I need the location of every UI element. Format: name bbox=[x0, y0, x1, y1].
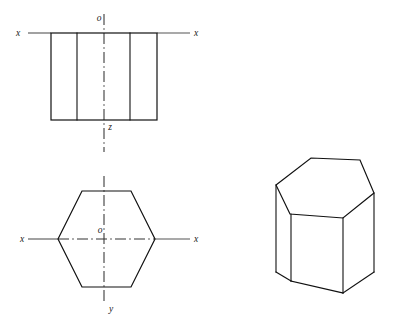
pictorial-bottom-front-left-edge bbox=[291, 281, 343, 293]
front-view-z-axis-label: z bbox=[107, 122, 112, 132]
drawing-canvas: x x o z x x o y bbox=[0, 0, 393, 327]
pictorial-top-face bbox=[276, 158, 374, 218]
top-view-origin-label: o bbox=[98, 225, 103, 235]
front-view-axis-label-right: x bbox=[193, 28, 199, 38]
top-view-axis-label-left: x bbox=[19, 234, 25, 244]
top-view-axis-label-right: x bbox=[193, 234, 199, 244]
pictorial-bottom-left-edge bbox=[276, 272, 291, 281]
front-view-group: x x o z bbox=[15, 13, 199, 152]
pictorial-view-group bbox=[276, 158, 374, 293]
pictorial-bottom-front-right-edge bbox=[343, 272, 374, 293]
front-view-axis-label-left: x bbox=[15, 28, 21, 38]
top-view-group: x x o y bbox=[19, 176, 199, 314]
technical-drawing-root: x x o z x x o y bbox=[0, 0, 393, 327]
top-view-y-axis-label: y bbox=[108, 304, 114, 314]
front-view-origin-label: o bbox=[97, 13, 102, 23]
